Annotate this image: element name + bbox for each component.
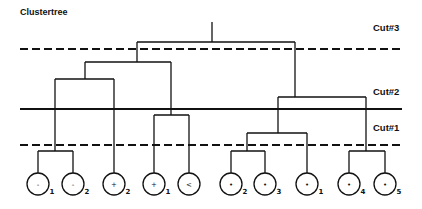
- leaf-node: •5: [374, 173, 402, 196]
- leaf-subscript: 3: [277, 188, 282, 196]
- leaf-node: -1: [27, 173, 55, 196]
- leaf-node: •4: [338, 173, 366, 196]
- leaf-subscript: 2: [243, 188, 248, 196]
- leaf-symbol: •: [383, 181, 387, 189]
- cluster-tree-diagram: Cut#3Cut#2Cut#1 -1-2+2+1<•2•3•1•4•5: [0, 0, 422, 209]
- leaf-symbol: •: [347, 181, 351, 189]
- leaf-symbol: •: [229, 181, 233, 189]
- tree-links: [38, 22, 385, 173]
- leaf-subscript: 4: [361, 188, 366, 196]
- leaf-symbol: +: [111, 181, 117, 189]
- leaf-subscript: 1: [50, 188, 55, 196]
- leaf-subscript: 5: [397, 188, 402, 196]
- leaf-node: +2: [103, 173, 131, 196]
- leaf-node: •2: [220, 173, 248, 196]
- leaf-node: +1: [143, 173, 171, 196]
- leaf-subscript: 2: [85, 188, 90, 196]
- leaf-symbol: •: [305, 181, 309, 189]
- cut-label: Cut#1: [373, 122, 400, 133]
- cut-label: Cut#2: [373, 86, 399, 97]
- cut-lines: Cut#3Cut#2Cut#1: [20, 22, 402, 145]
- leaf-node: <: [178, 173, 200, 195]
- tree-leaves: -1-2+2+1<•2•3•1•4•5: [27, 173, 402, 196]
- leaf-subscript: 2: [126, 188, 131, 196]
- leaf-symbol: +: [151, 181, 157, 189]
- leaf-node: •3: [254, 173, 282, 196]
- leaf-subscript: 1: [319, 188, 324, 196]
- leaf-node: -2: [62, 173, 90, 196]
- leaf-symbol: <: [186, 181, 192, 189]
- leaf-subscript: 1: [166, 188, 171, 196]
- cut-label: Cut#3: [373, 22, 399, 33]
- leaf-node: •1: [296, 173, 324, 196]
- leaf-symbol: •: [263, 181, 267, 189]
